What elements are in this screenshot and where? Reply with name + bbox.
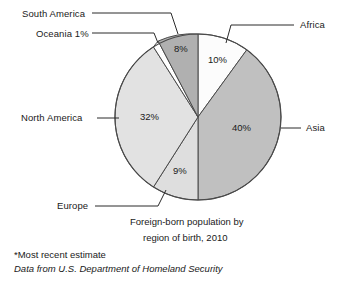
pie-chart-figure: South America Oceania 1% Africa Asia Nor… xyxy=(0,0,350,285)
pie-label-oceania: Oceania 1% xyxy=(36,28,89,39)
pie-value-north-america: 32% xyxy=(140,111,159,122)
leader-line-africa xyxy=(226,25,294,43)
pie-label-europe: Europe xyxy=(57,200,88,211)
pie-label-south-america: South America xyxy=(22,8,85,19)
pie-value-south-america: 8% xyxy=(174,43,188,54)
pie-label-north-america: North America xyxy=(21,112,83,123)
pie-value-africa: 10% xyxy=(208,54,227,65)
leader-line-europe xyxy=(95,190,166,206)
pie-value-europe: 9% xyxy=(173,165,187,176)
pie-label-asia: Asia xyxy=(306,122,325,133)
footnote-data-source: Data from U.S. Department of Homeland Se… xyxy=(14,263,223,274)
leader-line-oceania xyxy=(92,33,158,43)
pie-value-asia: 40% xyxy=(232,122,251,133)
pie-label-africa: Africa xyxy=(300,19,325,30)
chart-caption-line-1: Foreign-born population by xyxy=(130,216,244,227)
leader-line-south-america xyxy=(92,13,178,34)
chart-caption-line-2: region of birth, 2010 xyxy=(143,232,228,243)
footnote-estimate: *Most recent estimate xyxy=(14,249,106,260)
